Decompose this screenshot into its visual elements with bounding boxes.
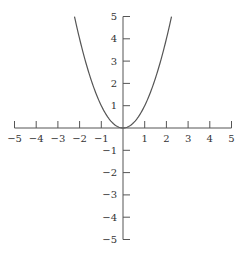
y-tick-label: −5 xyxy=(102,234,117,245)
x-tick-label: 4 xyxy=(207,133,213,144)
y-tick-label: 2 xyxy=(111,78,117,89)
x-tick-label: 1 xyxy=(142,133,148,144)
x-axis-ticks: −5−4−3−2−112345 xyxy=(7,121,235,144)
y-tick-label: −1 xyxy=(102,145,117,156)
y-tick-label: 1 xyxy=(111,100,117,111)
y-tick-label: −3 xyxy=(102,189,117,200)
x-tick-label: −4 xyxy=(29,133,44,144)
y-tick-label: 3 xyxy=(111,56,117,67)
x-tick-label: 2 xyxy=(163,133,169,144)
x-tick-label: 5 xyxy=(228,133,234,144)
y-tick-label: 5 xyxy=(111,11,117,22)
y-tick-label: 4 xyxy=(111,33,117,44)
y-tick-label: −2 xyxy=(102,167,117,178)
x-tick-label: −3 xyxy=(51,133,66,144)
x-tick-label: −5 xyxy=(7,133,22,144)
x-tick-label: −1 xyxy=(94,133,109,144)
chart: −5−4−3−2−112345 −5−4−3−2−112345 xyxy=(0,0,245,255)
x-tick-label: 3 xyxy=(185,133,191,144)
y-tick-label: −4 xyxy=(102,212,117,223)
x-tick-label: −2 xyxy=(72,133,87,144)
